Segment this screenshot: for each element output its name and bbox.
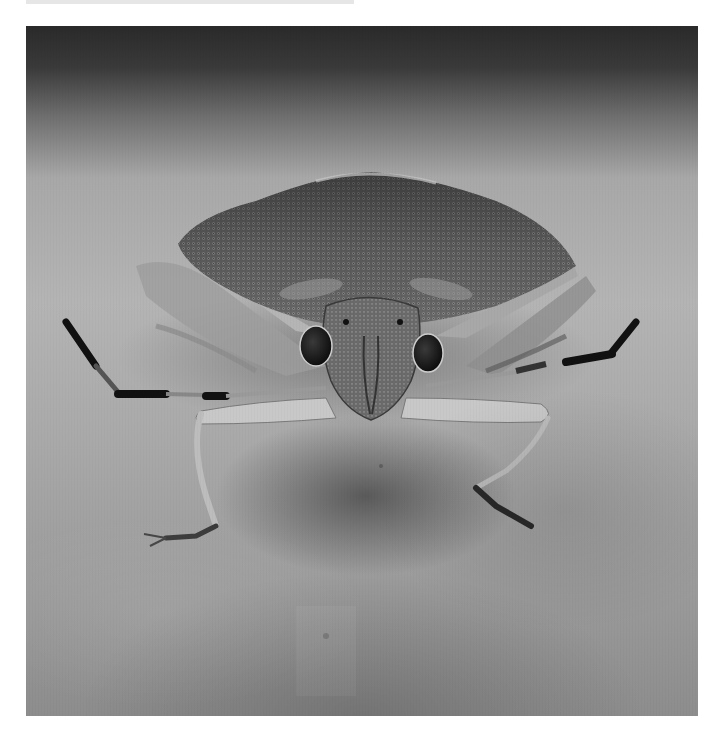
stink-bug-illustration [26,26,698,716]
stink-bug-photo [26,26,698,716]
left-ocellus [343,319,349,325]
body-shadow [216,416,516,576]
right-ocellus [397,319,403,325]
right-eye [413,334,443,372]
left-eye [300,326,332,366]
top-edge-strip [26,0,354,4]
